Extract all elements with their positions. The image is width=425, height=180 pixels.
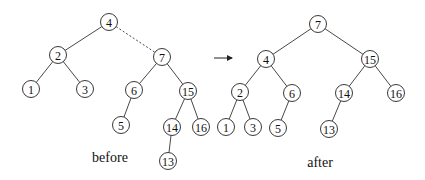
before-edge-2-1 (36, 62, 52, 83)
before-caption: before (92, 150, 128, 165)
node-label: 4 (106, 16, 112, 30)
before-edge-14-13 (169, 135, 171, 152)
after-edge-2-1 (229, 100, 237, 119)
after-edge-14-13 (332, 101, 340, 121)
node-label: 5 (275, 122, 281, 136)
node-label: 16 (390, 87, 402, 101)
before-node-3: 3 (77, 81, 94, 98)
before-edge-15-14 (175, 99, 184, 119)
node-label: 14 (338, 87, 350, 101)
before-edge-6-5 (124, 98, 131, 117)
after-node-14: 14 (336, 85, 353, 102)
after-edge-7-15 (325, 29, 363, 55)
node-label: 2 (237, 86, 243, 100)
node-label: 15 (182, 85, 194, 99)
after-tree: 741526141613513 after (218, 16, 405, 171)
before-node-15: 15 (180, 83, 197, 100)
node-label: 4 (263, 53, 269, 67)
before-node-5: 5 (113, 117, 130, 134)
node-label: 2 (55, 49, 61, 63)
node-label: 14 (166, 121, 178, 135)
tree-rotation-diagram: 427136155141613 before 741526141613513 a… (0, 0, 425, 180)
node-label: 5 (118, 119, 124, 133)
after-node-16: 16 (388, 85, 405, 102)
before-node-6: 6 (126, 82, 143, 99)
after-edge-6-5 (281, 101, 289, 120)
before-node-2: 2 (50, 47, 67, 64)
node-label: 1 (223, 121, 229, 135)
after-node-13: 13 (321, 121, 338, 138)
before-node-4: 4 (101, 14, 118, 31)
after-node-7: 7 (310, 16, 327, 33)
after-node-15: 15 (362, 51, 379, 68)
node-label: 3 (250, 121, 256, 135)
after-nodes: 741526141613513 (218, 16, 405, 138)
after-node-3: 3 (245, 119, 262, 136)
node-label: 7 (159, 51, 165, 65)
node-label: 16 (195, 121, 207, 135)
after-edge-4-2 (245, 66, 260, 86)
node-label: 13 (162, 155, 174, 169)
node-label: 1 (28, 83, 34, 97)
after-node-5: 5 (270, 120, 287, 137)
after-node-4: 4 (258, 51, 275, 68)
after-node-6: 6 (284, 85, 301, 102)
node-label: 7 (315, 18, 321, 32)
before-edge-15-16 (191, 99, 198, 119)
after-node-1: 1 (218, 119, 235, 136)
before-nodes: 427136155141613 (23, 14, 210, 170)
after-edges (229, 29, 391, 121)
before-node-13: 13 (160, 153, 177, 170)
after-edge-2-3 (243, 100, 250, 119)
after-node-2: 2 (232, 84, 249, 101)
before-edge-4-7 (116, 27, 155, 53)
after-edge-4-6 (271, 66, 287, 86)
after-edge-15-14 (349, 66, 365, 86)
before-node-14: 14 (164, 119, 181, 136)
node-label: 3 (82, 83, 88, 97)
before-edge-7-15 (167, 64, 183, 84)
node-label: 6 (131, 84, 137, 98)
before-node-1: 1 (23, 81, 40, 98)
before-edge-2-3 (63, 62, 79, 83)
before-edge-4-2 (65, 27, 102, 51)
before-tree: 427136155141613 before (23, 14, 210, 170)
before-edge-7-6 (139, 63, 156, 83)
after-edge-7-4 (273, 29, 311, 55)
node-label: 15 (364, 53, 376, 67)
before-node-16: 16 (193, 119, 210, 136)
node-label: 6 (289, 87, 295, 101)
node-label: 13 (323, 123, 335, 137)
after-edge-15-16 (375, 66, 391, 86)
before-node-7: 7 (154, 49, 171, 66)
after-caption: after (307, 155, 333, 170)
